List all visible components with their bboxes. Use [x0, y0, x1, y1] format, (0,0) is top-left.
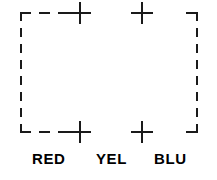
plate-label-blu: BLU	[154, 150, 187, 167]
crosshair-top-left-icon	[69, 2, 91, 24]
crosshair-bottom-left-icon	[69, 121, 91, 143]
plate-label-red: RED	[32, 150, 65, 167]
crosshair-bottom-right-icon	[131, 121, 153, 143]
crosshair-top-right-icon	[131, 2, 153, 24]
plate-label-row: RED YEL BLU	[0, 150, 217, 170]
plate-label-yel: YEL	[96, 150, 127, 167]
diagram-canvas: RED YEL BLU	[0, 0, 217, 180]
